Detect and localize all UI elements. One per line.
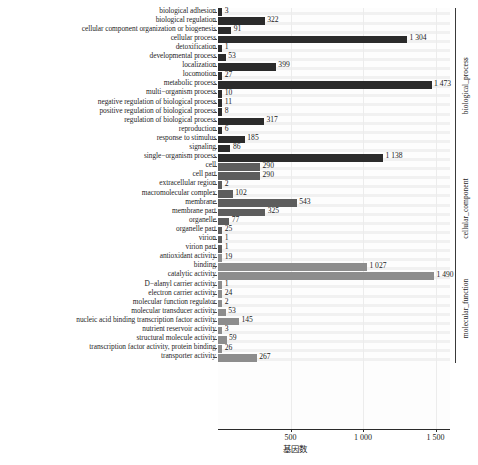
category-tick — [213, 30, 217, 31]
bar-row: locomotion27 — [0, 72, 478, 81]
category-tick — [213, 184, 217, 185]
bar-row: single−organism process1 138 — [0, 154, 478, 163]
category-label: localization — [182, 60, 216, 69]
bar-value-label: 543 — [299, 197, 310, 206]
bar-value-label: 1 — [225, 42, 229, 51]
bar — [218, 8, 222, 16]
bar-value-label: 19 — [225, 252, 233, 261]
bar-value-label: 267 — [259, 352, 270, 361]
bar-row: antioxidant activity19 — [0, 254, 478, 263]
category-label: signaling — [189, 142, 216, 151]
category-label: binding — [194, 260, 216, 269]
category-tick — [213, 275, 217, 276]
bar-value-label: 317 — [266, 115, 277, 124]
bar-value-label: 145 — [242, 315, 253, 324]
bar-row: signaling86 — [0, 145, 478, 154]
category-label: macromolecular complex — [142, 188, 216, 197]
category-tick — [213, 266, 217, 267]
bar-value-label: 399 — [278, 60, 289, 69]
category-tick — [213, 330, 217, 331]
bar-value-label: 86 — [233, 142, 241, 151]
category-tick — [213, 212, 217, 213]
bar-row: catalytic activity1 490 — [0, 272, 478, 281]
bar-value-label: 25 — [225, 224, 233, 233]
category-label: single−organism process — [144, 151, 216, 160]
bar-value-label: 6 — [225, 124, 229, 133]
bar — [218, 90, 222, 98]
bar-row: molecular transducer activity53 — [0, 308, 478, 317]
bar-value-label: 24 — [225, 288, 233, 297]
category-label: molecular transducer activity — [131, 306, 216, 315]
bar-row: virion1 — [0, 236, 478, 245]
bar — [218, 318, 239, 326]
category-label: negative regulation of biological proces… — [98, 97, 216, 106]
bar — [218, 17, 265, 25]
bar-value-label: 325 — [268, 206, 279, 215]
bar-row: cell290 — [0, 163, 478, 172]
bar-row: nucleic acid binding transcription facto… — [0, 317, 478, 326]
category-label: locomotion — [183, 69, 216, 78]
bar — [218, 236, 222, 244]
category-tick — [213, 57, 217, 58]
bar-value-label: 1 304 — [410, 33, 427, 42]
bar — [218, 27, 231, 35]
category-label: structural molecule activity — [137, 333, 216, 342]
bar-row: transcription factor activity, protein b… — [0, 345, 478, 354]
category-label: catalytic activity — [168, 269, 216, 278]
bar-row: metabolic process1 473 — [0, 81, 478, 90]
bar-value-label: 185 — [247, 133, 258, 142]
category-label: extracellular region — [159, 178, 216, 187]
category-label: positive regulation of biological proces… — [99, 106, 216, 115]
category-label: regulation of biological process — [124, 115, 216, 124]
bar-value-label: 27 — [225, 70, 233, 79]
x-axis-line — [218, 429, 450, 430]
bar-value-label: 1 490 — [437, 270, 454, 279]
category-label: reproduction — [179, 124, 216, 133]
bar-row: developmental process53 — [0, 54, 478, 63]
category-label: cell — [206, 160, 216, 169]
category-label: organelle — [189, 215, 216, 224]
bar — [218, 108, 222, 116]
bar — [218, 345, 222, 353]
bar-row: regulation of biological process317 — [0, 117, 478, 126]
category-tick — [213, 321, 217, 322]
bar — [218, 163, 260, 171]
category-tick — [213, 348, 217, 349]
category-label: electron carrier activity — [148, 288, 216, 297]
bar-row: electron carrier activity24 — [0, 290, 478, 299]
bar-row: transporter activity267 — [0, 354, 478, 363]
category-tick — [213, 139, 217, 140]
x-axis-title: 基因数 — [283, 444, 307, 454]
category-tick — [213, 230, 217, 231]
group-bracket-cellular-component — [455, 163, 456, 254]
category-label: antioxidant activity — [160, 251, 216, 260]
group-label-cellular-component: cellular_component — [461, 163, 470, 254]
category-tick — [213, 148, 217, 149]
bar — [218, 209, 265, 217]
category-label: developmental process — [150, 51, 216, 60]
category-label: transporter activity — [161, 351, 216, 360]
bar-value-label: 2 — [225, 297, 229, 306]
bar-value-label: 1 — [225, 233, 229, 242]
category-tick — [213, 130, 217, 131]
category-tick — [213, 303, 217, 304]
category-tick — [213, 339, 217, 340]
bar — [218, 199, 297, 207]
bar-value-label: 322 — [267, 15, 278, 24]
bar-row: binding1 027 — [0, 263, 478, 272]
bar-row: cellular process1 304 — [0, 35, 478, 44]
bar — [218, 190, 233, 198]
bar — [218, 327, 222, 335]
bar-value-label: 8 — [225, 106, 229, 115]
category-label: molecular function regulator — [133, 297, 216, 306]
group-label-biological-process: biological_process — [461, 8, 470, 163]
bar — [218, 181, 222, 189]
bar-value-label: 59 — [229, 333, 237, 342]
bar-value-label: 91 — [234, 24, 242, 33]
category-label: cell part — [192, 169, 216, 178]
bar-row: localization399 — [0, 63, 478, 72]
bar — [218, 127, 222, 135]
bar — [218, 300, 222, 308]
bar-row: cellular component organization or bioge… — [0, 26, 478, 35]
bar-value-label: 53 — [228, 51, 236, 60]
